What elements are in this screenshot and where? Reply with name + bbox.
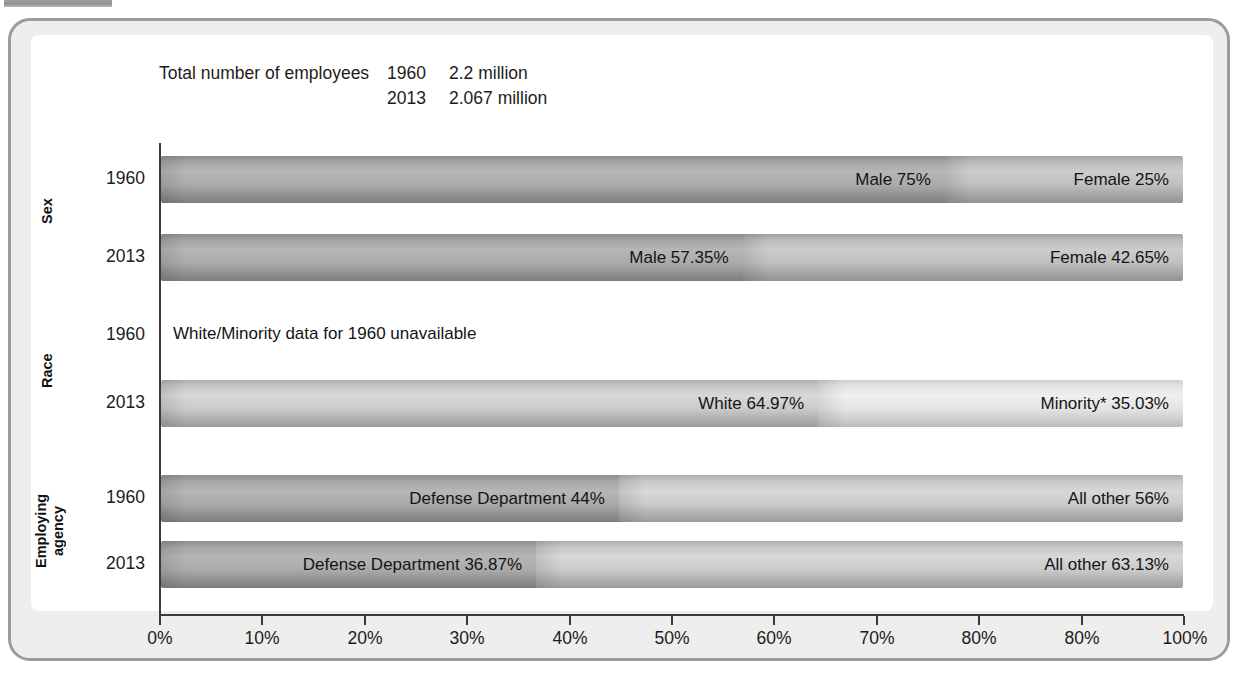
x-tick-label-10: 10%: [244, 628, 279, 649]
x-tick-90: [1081, 616, 1083, 625]
plot-canvas: [31, 35, 1213, 611]
segment-label-race-2013-white: White 64.97%: [698, 394, 804, 414]
x-tick-label-60: 60%: [756, 628, 791, 649]
segment-label-race-2013-minority: Minority* 35.03%: [1040, 394, 1169, 414]
x-tick-label-30: 30%: [449, 628, 484, 649]
x-tick-100: [1183, 616, 1185, 625]
chart-frame: Total number of employees19602.2 million…: [8, 18, 1230, 661]
bar-agency-1960: Defense Department 44% All other 56%: [161, 475, 1183, 522]
x-tick-label-70: 70%: [859, 628, 894, 649]
header-value-1960: 2.2 million: [449, 61, 528, 86]
row-year-sex-1960: 1960: [87, 168, 145, 189]
segment-race-2013-minority: Minority* 35.03%: [818, 380, 1183, 427]
header-year-2013: 2013: [387, 86, 449, 111]
group-label-race: Race: [39, 321, 57, 421]
chart-header: Total number of employees19602.2 million…: [159, 61, 547, 111]
segment-label-sex-2013-male: Male 57.35%: [629, 248, 728, 268]
segment-label-agency-1960-defense: Defense Department 44%: [409, 489, 605, 509]
segment-label-sex-1960-female: Female 25%: [1074, 170, 1169, 190]
segment-agency-1960-defense: Defense Department 44%: [161, 475, 619, 522]
segment-label-agency-1960-all-other: All other 56%: [1068, 489, 1169, 509]
segment-agency-2013-all-other: All other 63.13%: [536, 541, 1183, 588]
race-1960-no-data-note: White/Minority data for 1960 unavailable: [173, 324, 476, 344]
row-year-agency-2013: 2013: [87, 553, 145, 574]
bar-race-2013: White 64.97% Minority* 35.03%: [161, 380, 1183, 427]
top-cropped-bar: [4, 0, 112, 7]
group-label-employing-agency: Employing agency: [33, 476, 69, 586]
segment-race-2013-white: White 64.97%: [161, 380, 818, 427]
x-tick-label-90: 80%: [1064, 628, 1099, 649]
x-tick-label-40: 40%: [552, 628, 587, 649]
x-tick-80: [978, 616, 980, 625]
row-year-sex-2013: 2013: [87, 246, 145, 267]
segment-sex-2013-male: Male 57.35%: [161, 234, 743, 281]
header-title: Total number of employees: [159, 61, 387, 86]
segment-agency-1960-all-other: All other 56%: [619, 475, 1183, 522]
x-tick-60: [773, 616, 775, 625]
x-tick-label-80: 80%: [961, 628, 996, 649]
segment-sex-2013-female: Female 42.65%: [743, 234, 1183, 281]
x-tick-label-0: 0%: [147, 628, 172, 649]
segment-sex-1960-female: Female 25%: [945, 156, 1183, 203]
header-value-2013: 2.067 million: [449, 86, 547, 111]
x-tick-0: [159, 616, 161, 625]
segment-agency-2013-defense: Defense Department 36.87%: [161, 541, 536, 588]
header-row-2: 20132.067 million: [159, 86, 547, 111]
x-tick-20: [364, 616, 366, 625]
segment-label-sex-1960-male: Male 75%: [855, 170, 931, 190]
row-year-race-2013: 2013: [87, 392, 145, 413]
header-row-1: Total number of employees19602.2 million: [159, 61, 547, 86]
x-tick-label-50: 50%: [654, 628, 689, 649]
x-tick-30: [466, 616, 468, 625]
bar-sex-2013: Male 57.35% Female 42.65%: [161, 234, 1183, 281]
group-label-sex: Sex: [39, 161, 57, 261]
x-tick-label-20: 20%: [347, 628, 382, 649]
bar-sex-1960: Male 75% Female 25%: [161, 156, 1183, 203]
row-year-agency-1960: 1960: [87, 487, 145, 508]
x-tick-40: [569, 616, 571, 625]
x-tick-70: [876, 616, 878, 625]
chart-page: Total number of employees19602.2 million…: [0, 0, 1241, 675]
segment-label-agency-2013-defense: Defense Department 36.87%: [303, 555, 522, 575]
x-tick-50: [671, 616, 673, 625]
x-tick-10: [261, 616, 263, 625]
segment-label-sex-2013-female: Female 42.65%: [1050, 248, 1169, 268]
header-year-1960: 1960: [387, 61, 449, 86]
x-tick-label-100: 100%: [1163, 628, 1208, 649]
bar-agency-2013: Defense Department 36.87% All other 63.1…: [161, 541, 1183, 588]
segment-label-agency-2013-all-other: All other 63.13%: [1044, 555, 1169, 575]
segment-sex-1960-male: Male 75%: [161, 156, 945, 203]
row-year-race-1960: 1960: [87, 324, 145, 345]
